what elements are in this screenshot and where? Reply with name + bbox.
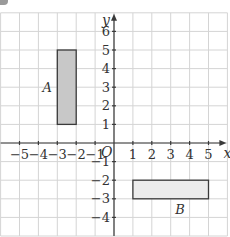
x-tick-label: 1 [129,147,137,162]
y-tick-label: −2 [91,173,110,188]
origin-label: O [101,144,113,160]
y-tick-label: 2 [102,98,110,113]
y-axis-arrow-icon [111,14,117,21]
y-tick-label: 5 [102,43,110,58]
y-axis-label: y [101,12,111,28]
x-tick-label: −4 [29,147,48,162]
x-tick-label: 2 [148,147,156,162]
x-tick-label: 4 [185,147,193,162]
shape-label-b: B [174,202,185,217]
y-tick-label: 3 [102,80,110,95]
y-tick-label: −4 [91,210,110,225]
coordinate-grid: −5−4−3−2−112345654321−1−2−3−4OxyAB [0,0,230,237]
shape-label-a: A [42,80,52,95]
x-tick-label: 3 [167,147,175,162]
y-tick-label: 4 [102,61,110,76]
x-axis-label: x [223,145,230,161]
x-tick-label: −2 [67,147,86,162]
shape-a [57,50,76,124]
x-tick-label: −5 [10,147,29,162]
x-tick-label: −3 [48,147,67,162]
x-tick-label: 5 [204,147,212,162]
shape-b [133,180,209,199]
y-tick-label: −3 [91,191,110,206]
y-tick-label: 1 [102,117,110,132]
